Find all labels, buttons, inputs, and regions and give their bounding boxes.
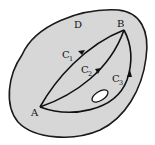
label-b: B (117, 18, 124, 29)
region-diagram: D B A C 1 C 2 C 3 (0, 0, 155, 145)
label-c2-sub: 2 (88, 70, 92, 78)
label-a: A (30, 107, 39, 118)
label-c1-sub: 1 (69, 55, 73, 63)
label-d: D (74, 19, 82, 30)
label-c3-sub: 3 (119, 79, 123, 87)
